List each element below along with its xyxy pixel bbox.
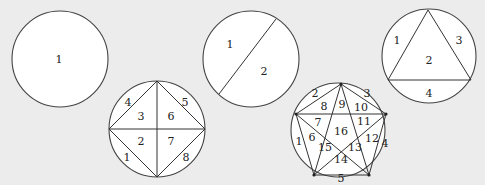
region-label: 1 — [227, 38, 234, 51]
region-label: 12 — [365, 132, 379, 145]
region-label: 2 — [261, 65, 268, 78]
region-label: 6 — [309, 131, 316, 144]
region-label: 8 — [321, 100, 328, 113]
vertex-point — [339, 82, 342, 85]
region-label: 1 — [296, 135, 303, 148]
region-label: 4 — [125, 96, 132, 109]
region-label: 11 — [357, 115, 371, 128]
region-label: 2 — [138, 135, 145, 148]
region-label: 16 — [334, 125, 348, 138]
vertex-point — [294, 112, 297, 115]
region-label: 2 — [426, 54, 433, 67]
region-label: 5 — [182, 96, 189, 109]
region-label: 15 — [318, 141, 332, 154]
region-label: 3 — [364, 87, 371, 100]
diagram-circle-16-regions: 1 2 3 4 5 6 7 8 9 10 11 12 13 14 15 16 — [291, 82, 389, 184]
region-label: 6 — [168, 110, 175, 123]
circle-division-figure: 1 1 2 1 2 3 4 1 2 3 4 5 6 7 8 — [0, 0, 485, 184]
region-label: 13 — [348, 141, 362, 154]
region-label: 2 — [312, 87, 319, 100]
vertex-point — [384, 112, 387, 115]
region-label: 1 — [124, 151, 131, 164]
diagram-circle-2-regions: 1 2 — [203, 11, 299, 107]
region-label: 1 — [56, 53, 63, 66]
region-label: 10 — [354, 101, 368, 114]
region-label: 8 — [183, 151, 190, 164]
region-label: 5 — [338, 172, 345, 185]
region-label: 3 — [138, 110, 145, 123]
region-label: 7 — [168, 135, 175, 148]
diagram-circle-4-regions: 1 2 3 4 — [382, 9, 476, 103]
region-label: 4 — [382, 137, 389, 150]
region-label: 9 — [339, 98, 346, 111]
region-label: 14 — [334, 153, 348, 166]
region-label: 3 — [456, 34, 463, 47]
diagram-circle-8-regions: 1 2 3 4 5 6 7 8 — [109, 81, 205, 177]
region-label: 1 — [394, 34, 401, 47]
vertex-point — [312, 173, 315, 176]
vertex-point — [367, 173, 370, 176]
region-label: 4 — [426, 87, 433, 100]
diagram-circle-1-region: 1 — [12, 11, 108, 107]
circle-outline — [203, 11, 299, 107]
region-label: 7 — [315, 116, 322, 129]
